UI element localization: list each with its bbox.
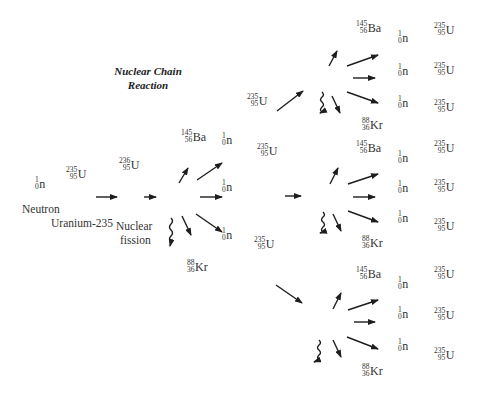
nuclide-barium-stage1: 14556 Ba xyxy=(181,129,206,143)
atomic-number: 95 xyxy=(438,106,446,113)
nuclide-symbol: U xyxy=(259,93,268,107)
title-line-1: Nuclear Chain xyxy=(98,64,198,78)
nuclide-symbol: Kr xyxy=(370,117,383,131)
atomic-number: 0 xyxy=(398,313,402,320)
atomic-number: 36 xyxy=(362,124,370,131)
nuclide-u235-stage2a-1: 23595 U xyxy=(434,22,454,36)
nuclide-indices: 8836 xyxy=(187,259,195,273)
nuclide-indices: 8836 xyxy=(362,117,370,131)
atomic-number: 0 xyxy=(398,157,402,164)
nuclide-symbol: n xyxy=(402,338,408,352)
nuclide-indices: 23595 xyxy=(257,143,268,157)
nuclide-barium-stage2a: 14556 Ba xyxy=(356,20,381,34)
atomic-number: 56 xyxy=(360,147,368,154)
nuclide-indices: 23595 xyxy=(434,347,445,361)
atomic-number: 36 xyxy=(362,242,370,249)
atomic-number: 56 xyxy=(360,27,368,34)
nuclide-indices: 10 xyxy=(398,210,402,224)
nuclide-indices: 23595 xyxy=(434,307,445,321)
nuclide-indices: 10 xyxy=(35,176,39,190)
reaction-arrows xyxy=(0,0,478,396)
nuclide-indices: 10 xyxy=(398,306,402,320)
label-uranium-235: Uranium-235 xyxy=(51,216,113,230)
atomic-number: 95 xyxy=(438,29,446,36)
atomic-number: 56 xyxy=(185,136,193,143)
nuclide-indices: 8836 xyxy=(362,363,370,377)
nuclide-symbol: Ba xyxy=(368,140,381,154)
nuclide-indices: 23595 xyxy=(434,22,445,36)
nuclide-u235-stage2a-2: 23595 U xyxy=(434,62,454,76)
label-neutron: Neutron xyxy=(22,202,60,216)
nuclide-neutron-stage2c-2: 10 n xyxy=(398,306,408,320)
nuclide-u235-stage2b-3: 23595 U xyxy=(434,218,454,232)
nuclide-indices: 23595 xyxy=(434,266,445,280)
diagram-title: Nuclear Chain Reaction xyxy=(98,64,198,92)
nuclide-symbol: Ba xyxy=(193,129,206,143)
nuclide-symbol: U xyxy=(446,347,455,361)
nuclide-indices: 23595 xyxy=(254,236,265,250)
nuclide-neutron-stage2b-1: 10 n xyxy=(398,150,408,164)
nuclide-symbol: Ba xyxy=(368,266,381,280)
atomic-number: 0 xyxy=(398,102,402,109)
atomic-number: 0 xyxy=(398,70,402,77)
atomic-number: 36 xyxy=(362,370,370,377)
atomic-number: 95 xyxy=(251,100,259,107)
atomic-number: 0 xyxy=(35,183,39,190)
nuclide-indices: 8836 xyxy=(362,235,370,249)
nuclide-indices: 10 xyxy=(398,150,402,164)
nuclide-u235-stage2b-2: 23595 U xyxy=(434,179,454,193)
nuclide-symbol: Kr xyxy=(370,363,383,377)
nuclide-barium-stage2c: 14556 Ba xyxy=(356,266,381,280)
nuclide-indices: 23595 xyxy=(434,99,445,113)
nuclide-indices: 23595 xyxy=(434,140,445,154)
nuclide-neutron-stage2b-2: 10 n xyxy=(398,180,408,194)
nuclide-indices: 10 xyxy=(398,180,402,194)
nuclide-u235-target-1: 23595 U xyxy=(247,93,267,107)
atomic-number: 95 xyxy=(438,314,446,321)
atomic-number: 0 xyxy=(222,186,226,193)
nuclide-neutron-stage1-2: 10 n xyxy=(222,179,232,193)
nuclide-neutron-stage2c-3: 10 n xyxy=(398,338,408,352)
nuclide-indices: 10 xyxy=(398,276,402,290)
nuclide-symbol: n xyxy=(402,63,408,77)
nuclide-symbol: n xyxy=(226,132,232,146)
nuclide-symbol: n xyxy=(402,150,408,164)
nuclide-u235-target-2: 23595 U xyxy=(257,143,277,157)
nuclide-symbol: Kr xyxy=(195,259,208,273)
nuclide-indices: 14556 xyxy=(181,129,192,143)
nuclide-u235-stage2c-2: 23595 U xyxy=(434,307,454,321)
nuclide-symbol: Ba xyxy=(368,20,381,34)
nuclide-u236: 23695 U xyxy=(119,157,139,171)
atomic-number: 95 xyxy=(123,164,131,171)
nuclide-neutron-stage2a-2: 10 n xyxy=(398,63,408,77)
atomic-number: 95 xyxy=(438,273,446,280)
atomic-number: 95 xyxy=(261,150,269,157)
atomic-number: 0 xyxy=(398,283,402,290)
nuclide-indices: 23595 xyxy=(66,166,77,180)
nuclide-symbol: U xyxy=(446,22,455,36)
nuclide-indices: 10 xyxy=(398,30,402,44)
nuclide-symbol: n xyxy=(226,227,232,241)
nuclide-symbol: U xyxy=(266,236,275,250)
nuclide-symbol: U xyxy=(446,140,455,154)
nuclide-symbol: U xyxy=(446,266,455,280)
atomic-number: 95 xyxy=(70,173,78,180)
nuclide-krypton-stage1: 8836 Kr xyxy=(187,259,208,273)
atomic-number: 0 xyxy=(398,187,402,194)
nuclide-indices: 23595 xyxy=(434,179,445,193)
nuclide-u235-initial: 23595 U xyxy=(66,166,86,180)
atomic-number: 0 xyxy=(398,217,402,224)
nuclide-krypton-stage2c: 8836 Kr xyxy=(362,363,383,377)
atomic-number: 95 xyxy=(438,69,446,76)
nuclide-symbol: U xyxy=(78,166,87,180)
title-line-2: Reaction xyxy=(98,78,198,92)
nuclide-symbol: n xyxy=(402,306,408,320)
nuclide-neutron-stage1-1: 10 n xyxy=(222,132,232,146)
atomic-number: 95 xyxy=(438,147,446,154)
nuclide-indices: 10 xyxy=(222,132,226,146)
nuclide-krypton-stage2a: 8836 Kr xyxy=(362,117,383,131)
atomic-number: 56 xyxy=(360,273,368,280)
nuclide-symbol: U xyxy=(446,218,455,232)
nuclide-symbol: U xyxy=(446,307,455,321)
atomic-number: 95 xyxy=(438,225,446,232)
